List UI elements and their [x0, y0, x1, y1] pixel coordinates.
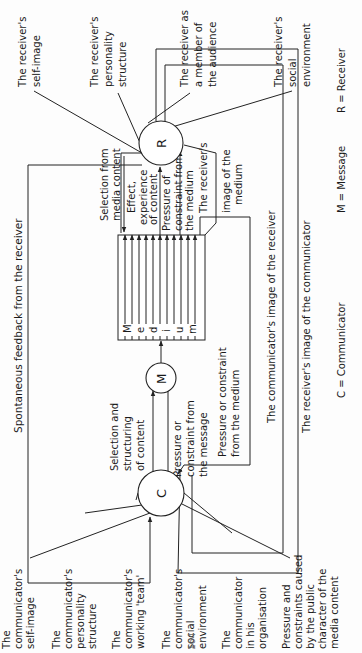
factor-comm-team: Thecommunicator'sworking 'team' [111, 569, 146, 650]
pressure-medium-c-label: Pressure or constraint from the medium [217, 344, 241, 457]
maletzke-model-diagram: Spontaneous feedback from the receiver S… [0, 0, 362, 653]
factor-comm-social: Thecommunicator'ssocialenvironment [161, 569, 208, 650]
factor-recv-self-image: The receiver'sself-image [17, 17, 42, 88]
spontaneous-feedback-label: Spontaneous feedback from the receiver [12, 218, 24, 433]
svg-text:d: d [148, 327, 159, 333]
comm-image-receiver-label: The communicator's image of the receiver [266, 209, 277, 424]
svg-text:u: u [174, 327, 185, 333]
communicator-factors: Thecommunicator'sself-image Thecommunica… [1, 555, 340, 650]
medium-letters: M e d i u m [120, 324, 202, 336]
legend-message: M = Message [336, 146, 347, 213]
svg-text:M: M [122, 324, 133, 333]
legend: C = Communicator M = Message R = Receive… [336, 47, 347, 398]
receiver-symbol: R [154, 139, 169, 148]
effect-experience-label: Effect, experience of content [126, 166, 159, 225]
page-number: 164 [187, 633, 197, 650]
factor-recv-social: The receiver'ssocialenvironment [273, 17, 312, 88]
receiver-image-medium-label: The receiver's image of the medium [198, 139, 244, 214]
factor-comm-organisation: Thecommunicatorin hisorganisation [221, 576, 268, 650]
recv-image-comm-label: The receiver's image of the communicator [301, 219, 312, 434]
svg-text:e: e [135, 327, 146, 333]
factor-comm-personality: Thecommunicator'spersonalitystructure [51, 569, 98, 650]
factor-recv-personality: The receiver'spersonalitystructure [89, 17, 128, 88]
selection-structuring-label: Selection and structuring of content [109, 400, 146, 471]
svg-text:i: i [161, 329, 172, 332]
factor-comm-self-image: Thecommunicator'sself-image [1, 569, 36, 650]
svg-text:m: m [187, 324, 198, 334]
selection-media-content-label: Selection from media content [99, 145, 122, 221]
legend-receiver: R = Receiver [336, 47, 347, 113]
factor-comm-public-pressure: Pressure andconstraints causedby the pub… [281, 555, 340, 649]
factor-recv-audience: The receiver asa member ofthe audience [179, 10, 218, 88]
legend-communicator: C = Communicator [336, 302, 347, 398]
message-symbol: M [155, 374, 169, 384]
communicator-symbol: C [154, 489, 169, 498]
